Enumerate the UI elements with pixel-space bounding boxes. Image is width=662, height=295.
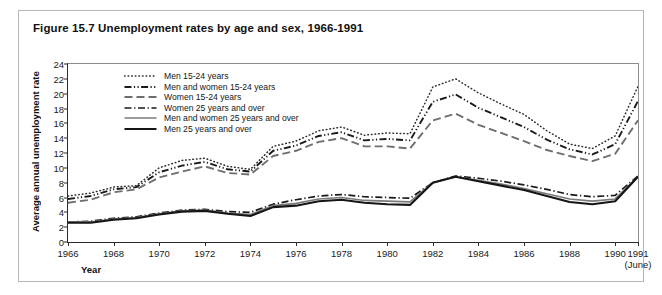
figure-title: Figure 15.7 Unemployment rates by age an…: [33, 22, 363, 34]
legend-line-swatch-icon: [124, 113, 157, 123]
x-axis-tick-label: 1982: [422, 248, 443, 259]
legend-item-label: Men and women 15-24 years: [164, 82, 275, 92]
x-axis-tick-mark: [387, 242, 388, 246]
x-axis-tick-mark: [296, 242, 297, 246]
y-axis-tick-mark: [64, 182, 68, 183]
y-axis-tick-label: 18: [53, 103, 64, 114]
y-axis-tick-mark: [64, 64, 68, 65]
x-axis-tick-mark: [478, 242, 479, 246]
y-axis-tick-mark: [64, 138, 68, 139]
x-axis-tick-label: 1972: [194, 248, 215, 259]
legend-item-label: Men and women 25 years and over: [164, 113, 299, 123]
legend-item-label: Men 25 years and over: [164, 124, 252, 134]
legend-item-label: Men 15-24 years: [164, 71, 229, 81]
y-axis-tick-label: 22: [53, 73, 64, 84]
y-axis-tick-mark: [64, 167, 68, 168]
x-axis-tick-mark: [638, 242, 639, 246]
y-axis-tick-mark: [64, 212, 68, 213]
chart-legend: Men 15-24 yearsMen and women 15-24 years…: [124, 71, 299, 134]
y-axis-tick-mark: [64, 108, 68, 109]
y-axis-tick-label: 20: [53, 88, 64, 99]
x-axis-tick-mark: [205, 242, 206, 246]
y-axis-tick-mark: [64, 123, 68, 124]
x-axis-tick-label: 1970: [149, 248, 170, 259]
y-axis-tick-mark: [64, 78, 68, 79]
x-axis-tick-label: 1976: [285, 248, 306, 259]
x-axis-tick-label: 1980: [377, 248, 398, 259]
x-axis-tick-label: 1968: [103, 248, 124, 259]
y-axis-tick-label: 24: [53, 59, 64, 70]
y-axis-tick-label: 14: [53, 133, 64, 144]
x-axis-label: Year: [81, 264, 101, 275]
legend-item[interactable]: Men 25 years and over: [124, 124, 299, 135]
legend-line-swatch-icon: [124, 82, 157, 92]
y-axis-label: Average annual unemployment rate: [28, 63, 42, 241]
x-axis-tick-mark: [68, 242, 69, 246]
y-axis-tick-mark: [64, 227, 68, 228]
x-axis-tick-mark: [114, 242, 115, 246]
x-axis-tick-label: 1966: [57, 248, 78, 259]
x-axis-tick-label: 1988: [559, 248, 580, 259]
legend-item-label: Women 15-24 years: [164, 92, 241, 102]
x-axis-tick-mark: [159, 242, 160, 246]
x-axis-tick-label: 1984: [468, 248, 489, 259]
x-axis-tick-mark: [570, 242, 571, 246]
legend-line-swatch-icon: [124, 71, 157, 81]
y-axis-tick-label: 12: [53, 148, 64, 159]
y-axis-tick-mark: [64, 197, 68, 198]
x-axis-end-note: (June): [625, 259, 652, 270]
legend-item[interactable]: Women 15-24 years: [124, 92, 299, 103]
y-axis-tick-label: 16: [53, 118, 64, 129]
figure-card: Figure 15.7 Unemployment rates by age an…: [18, 10, 644, 282]
x-axis-tick-label: 1986: [513, 248, 534, 259]
x-axis-tick-mark: [250, 242, 251, 246]
legend-line-swatch-icon: [124, 92, 157, 102]
x-axis-tick-mark: [524, 242, 525, 246]
legend-line-swatch-icon: [124, 124, 157, 134]
x-axis-tick-mark: [342, 242, 343, 246]
legend-item[interactable]: Men and women 25 years and over: [124, 113, 299, 124]
y-axis-tick-mark: [64, 93, 68, 94]
legend-item[interactable]: Women 25 years and over: [124, 103, 299, 114]
x-axis-tick-label: 1974: [240, 248, 261, 259]
legend-item-label: Women 25 years and over: [164, 103, 265, 113]
x-axis-tick-mark: [433, 242, 434, 246]
x-axis-tick-label: 1990: [605, 248, 626, 259]
x-axis-tick-label: 1978: [331, 248, 352, 259]
legend-item[interactable]: Men 15-24 years: [124, 71, 299, 82]
legend-line-swatch-icon: [124, 103, 157, 113]
x-axis-tick-label: 1991: [627, 248, 648, 259]
y-axis-tick-label: 10: [53, 162, 64, 173]
legend-item[interactable]: Men and women 15-24 years: [124, 82, 299, 93]
x-axis-tick-mark: [615, 242, 616, 246]
y-axis-tick-mark: [64, 153, 68, 154]
